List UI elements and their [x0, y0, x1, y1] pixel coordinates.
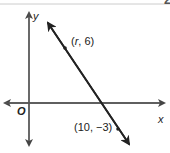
point-10-neg3 — [116, 127, 120, 131]
corner-label: 2 — [164, 0, 170, 6]
point-label-10-neg3: (10, −3) — [74, 122, 112, 133]
y-axis-label: y — [33, 11, 39, 22]
origin-label: O — [17, 106, 26, 117]
point-r-6 — [63, 46, 67, 50]
x-axis-label: x — [158, 114, 164, 125]
point-label-r-6: (r, 6) — [71, 36, 94, 47]
